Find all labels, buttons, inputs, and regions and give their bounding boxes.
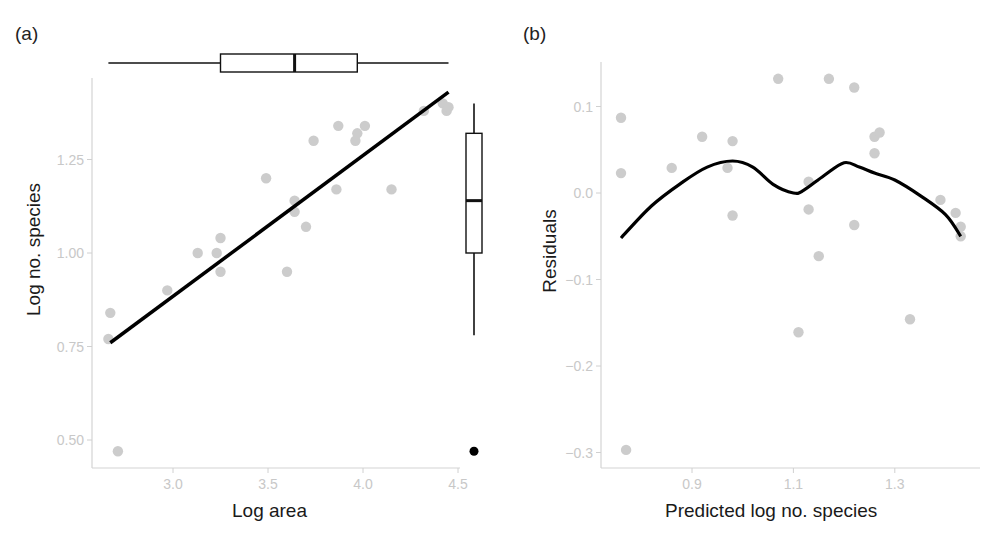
tick-label: 1.1 bbox=[784, 476, 804, 492]
data-point bbox=[935, 195, 945, 205]
outlier-point bbox=[470, 447, 479, 456]
data-point bbox=[386, 184, 396, 194]
data-point bbox=[215, 267, 225, 277]
panel-a-yticks: 0.500.751.001.25 bbox=[57, 152, 92, 449]
panel-b-points bbox=[616, 74, 966, 455]
panel-b-axes: −0.3−0.2−0.10.00.1 0.91.11.3 bbox=[565, 62, 980, 492]
tick-label: 1.3 bbox=[885, 476, 905, 492]
data-point bbox=[308, 136, 318, 146]
data-point bbox=[727, 210, 737, 220]
data-point bbox=[793, 327, 803, 337]
tick-label: 3.0 bbox=[163, 476, 183, 492]
data-point bbox=[282, 267, 292, 277]
data-point bbox=[360, 121, 370, 131]
data-point bbox=[697, 132, 707, 142]
data-point bbox=[849, 82, 859, 92]
data-point bbox=[616, 168, 626, 178]
panel-a-regression-line bbox=[110, 92, 448, 343]
data-point bbox=[352, 128, 362, 138]
data-point bbox=[616, 113, 626, 123]
tick-label: −0.2 bbox=[565, 358, 593, 374]
data-point bbox=[443, 102, 453, 112]
data-point bbox=[667, 163, 677, 173]
data-point bbox=[215, 233, 225, 243]
data-point bbox=[849, 220, 859, 230]
data-point bbox=[905, 314, 915, 324]
data-point bbox=[824, 74, 834, 84]
data-point bbox=[869, 148, 879, 158]
panel-a-xticks: 3.03.54.04.5 bbox=[163, 468, 468, 492]
panel-b-yticks: −0.3−0.2−0.10.00.1 bbox=[565, 99, 601, 461]
tick-label: −0.3 bbox=[565, 445, 593, 461]
data-point bbox=[105, 308, 115, 318]
tick-label: 0.1 bbox=[574, 99, 594, 115]
data-point bbox=[950, 208, 960, 218]
panel-a-points bbox=[103, 98, 453, 456]
panel-b-xticks: 0.91.11.3 bbox=[682, 468, 904, 492]
data-point bbox=[803, 204, 813, 214]
data-point bbox=[301, 222, 311, 232]
data-point bbox=[331, 184, 341, 194]
tick-label: −0.1 bbox=[565, 272, 593, 288]
data-point bbox=[193, 248, 203, 258]
tick-label: 3.5 bbox=[258, 476, 278, 492]
panel-a-marginal-boxplot-x bbox=[108, 54, 448, 72]
data-point bbox=[333, 121, 343, 131]
data-point bbox=[212, 248, 222, 258]
panel-a-marginal-boxplot-y bbox=[466, 103, 482, 455]
tick-label: 4.5 bbox=[448, 476, 468, 492]
data-point bbox=[621, 445, 631, 455]
data-point bbox=[261, 173, 271, 183]
tick-label: 1.00 bbox=[57, 245, 84, 261]
tick-label: 0.9 bbox=[682, 476, 702, 492]
tick-label: 0.50 bbox=[57, 432, 84, 448]
tick-label: 4.0 bbox=[353, 476, 373, 492]
figure-canvas: 0.500.751.001.25 3.03.54.04.5 −0.3−0.2−0… bbox=[0, 0, 1003, 547]
tick-label: 0.0 bbox=[574, 185, 594, 201]
data-point bbox=[113, 446, 123, 456]
panel-a-axes: 0.500.751.001.25 3.03.54.04.5 bbox=[57, 78, 468, 492]
data-point bbox=[727, 136, 737, 146]
tick-label: 0.75 bbox=[57, 339, 84, 355]
data-point bbox=[814, 251, 824, 261]
data-point bbox=[162, 285, 172, 295]
tick-label: 1.25 bbox=[57, 152, 84, 168]
data-point bbox=[773, 74, 783, 84]
data-point bbox=[874, 127, 884, 137]
data-point bbox=[722, 163, 732, 173]
